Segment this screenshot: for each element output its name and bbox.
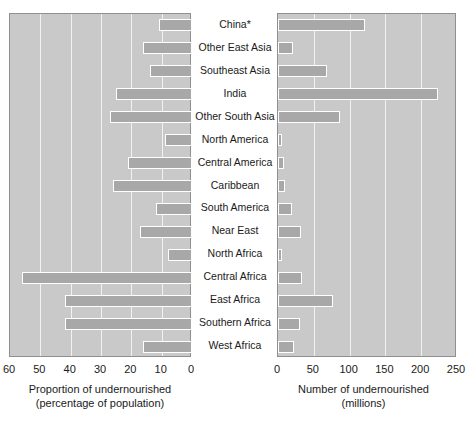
category-label: East Africa bbox=[192, 294, 278, 305]
bar bbox=[150, 65, 192, 77]
x-axis-tick-label: 200 bbox=[405, 363, 435, 375]
gridline bbox=[385, 14, 386, 356]
bar bbox=[278, 134, 282, 146]
bar bbox=[65, 318, 192, 330]
plot-panel-number bbox=[277, 13, 456, 357]
gridline bbox=[421, 14, 422, 356]
category-label: Other South Asia bbox=[192, 111, 278, 122]
gridline bbox=[40, 14, 41, 356]
category-axis-labels: China*Other East AsiaSoutheast AsiaIndia… bbox=[192, 13, 278, 357]
x-axis-tick-label: 0 bbox=[262, 363, 292, 375]
x-axis-tick-label: 10 bbox=[146, 363, 176, 375]
bar bbox=[65, 295, 192, 307]
bar bbox=[165, 134, 192, 146]
bar bbox=[156, 203, 192, 215]
bar bbox=[159, 19, 192, 31]
bar bbox=[278, 203, 292, 215]
x-axis-tick-label: 100 bbox=[334, 363, 364, 375]
bar bbox=[278, 111, 340, 123]
bar bbox=[278, 19, 365, 31]
x-axis-title-proportion: Proportion of undernourished (percentage… bbox=[0, 383, 200, 410]
x-axis-tick-label: 0 bbox=[176, 363, 206, 375]
bar bbox=[278, 295, 333, 307]
bar bbox=[140, 226, 192, 238]
plot-panel-proportion bbox=[9, 13, 191, 357]
x-axis-tick-label: 50 bbox=[24, 363, 54, 375]
bar bbox=[278, 226, 301, 238]
bar bbox=[113, 180, 192, 192]
x-axis-title-number-line2: (millions) bbox=[265, 397, 462, 411]
bar bbox=[278, 180, 285, 192]
bar bbox=[168, 249, 192, 261]
x-axis-tick-label: 150 bbox=[369, 363, 399, 375]
bar bbox=[128, 157, 192, 169]
category-label: Caribbean bbox=[192, 180, 278, 191]
bar bbox=[278, 249, 282, 261]
bar bbox=[110, 111, 192, 123]
category-label: South America bbox=[192, 202, 278, 213]
category-label: North America bbox=[192, 134, 278, 145]
category-label: Southern Africa bbox=[192, 317, 278, 328]
x-axis-tick-label: 40 bbox=[55, 363, 85, 375]
bar bbox=[278, 318, 300, 330]
x-axis-title-number-line1: Number of undernourished bbox=[265, 383, 462, 397]
x-axis-title-proportion-line2: (percentage of population) bbox=[0, 397, 200, 411]
bar bbox=[143, 341, 192, 353]
bar bbox=[278, 88, 438, 100]
bar bbox=[278, 42, 293, 54]
x-axis-title-proportion-line1: Proportion of undernourished bbox=[0, 383, 200, 397]
bar bbox=[278, 65, 327, 77]
x-axis-tick-label: 30 bbox=[85, 363, 115, 375]
bar bbox=[143, 42, 192, 54]
category-label: Central Africa bbox=[192, 271, 278, 282]
x-axis-tick-label: 60 bbox=[0, 363, 24, 375]
x-axis-tick-label: 250 bbox=[441, 363, 470, 375]
category-label: Southeast Asia bbox=[192, 65, 278, 76]
category-label: Other East Asia bbox=[192, 42, 278, 53]
category-label: India bbox=[192, 88, 278, 99]
bar bbox=[278, 157, 284, 169]
category-label: West Africa bbox=[192, 340, 278, 351]
x-axis-tick-label: 20 bbox=[115, 363, 145, 375]
gridline bbox=[350, 14, 351, 356]
category-label: North Africa bbox=[192, 248, 278, 259]
category-label: China* bbox=[192, 19, 278, 30]
category-label: Near East bbox=[192, 225, 278, 236]
bar bbox=[22, 272, 192, 284]
bar bbox=[278, 272, 302, 284]
bar bbox=[278, 341, 294, 353]
x-axis-tick-label: 50 bbox=[298, 363, 328, 375]
x-axis-title-number: Number of undernourished (millions) bbox=[265, 383, 462, 410]
bar bbox=[116, 88, 192, 100]
category-label: Central America bbox=[192, 157, 278, 168]
